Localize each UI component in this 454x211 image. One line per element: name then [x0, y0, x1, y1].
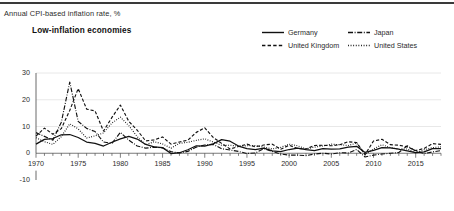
x-axis-tick-label: 1980 [105, 159, 135, 168]
chart-plot-area [0, 58, 454, 211]
legend-swatch-solid-icon [262, 29, 284, 36]
x-axis-tick-label: 1985 [148, 159, 178, 168]
bottom-spacer [0, 205, 454, 211]
legend-label-united-kingdom: United Kingdom [288, 41, 339, 50]
x-axis-tick-label: 2000 [274, 159, 304, 168]
x-axis-tick-label: 2010 [359, 159, 389, 168]
top-divider-rule [0, 2, 454, 4]
legend-swatch-dashed-icon [262, 42, 284, 49]
legend-swatch-dotted-icon [348, 42, 370, 49]
legend-swatch-dashdot-icon [348, 29, 370, 36]
chart-legend: Germany Japan United Kingdom United Stat… [262, 26, 452, 52]
legend-label-japan: Japan [374, 28, 394, 37]
series-line-united-kingdom [36, 89, 441, 155]
y-axis-tick-label: 30 [6, 68, 30, 77]
x-axis-tick-label: 2005 [316, 159, 346, 168]
legend-item-united-states: United States [348, 41, 452, 50]
legend-label-united-states: United States [374, 41, 417, 50]
y-axis-tick-label: -10 [6, 175, 30, 184]
legend-item-united-kingdom: United Kingdom [262, 41, 348, 50]
x-axis-tick-label: 1990 [190, 159, 220, 168]
x-axis-tick-label: 2015 [401, 159, 431, 168]
x-axis-tick-label: 1995 [232, 159, 262, 168]
x-axis-tick-label: 1975 [63, 159, 93, 168]
legend-item-japan: Japan [348, 28, 452, 37]
series-line-germany [36, 135, 441, 154]
y-axis-tick-label: 0 [6, 148, 30, 157]
y-axis-tick-label: 10 [6, 122, 30, 131]
y-axis-tick-label: 20 [6, 95, 30, 104]
page-title: Low-inflation economies [32, 26, 131, 35]
legend-item-germany: Germany [262, 28, 348, 37]
inflation-line-chart [0, 58, 454, 211]
legend-label-germany: Germany [288, 28, 318, 37]
chart-axis-note: Annual CPI-based inflation rate, % [4, 9, 120, 18]
x-axis-tick-label: 1970 [21, 159, 51, 168]
